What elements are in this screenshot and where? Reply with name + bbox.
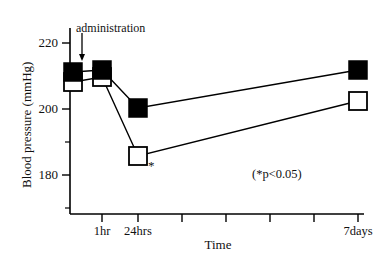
x-axis-title: Time: [178, 238, 258, 251]
administration-arrow-icon: [79, 33, 85, 61]
chart-plot-area: [0, 0, 387, 259]
marker-filled-1hr: [93, 61, 111, 79]
marker-open-24hrs: [129, 147, 147, 165]
marker-filled-24hrs: [129, 99, 147, 117]
administration-label: administration: [76, 22, 145, 34]
significance-star: *: [148, 159, 155, 172]
y-axis-title: Blood pressure (mmHg): [20, 62, 33, 188]
xtick-label-24hrs: 24hrs: [113, 225, 163, 238]
series-open-line: [73, 77, 358, 156]
marker-filled-7days: [349, 61, 367, 79]
ytick-label-220: 220: [26, 36, 58, 49]
xtick-label-7days: 7days: [333, 225, 383, 238]
marker-filled-t0: [64, 63, 82, 81]
chart-container: 220 200 180 Blood pressure (mmHg) 1hr 24…: [0, 0, 387, 259]
p-value-note: (*p<0.05): [252, 168, 302, 181]
series-filled-line: [73, 70, 358, 108]
marker-open-7days: [349, 92, 367, 110]
